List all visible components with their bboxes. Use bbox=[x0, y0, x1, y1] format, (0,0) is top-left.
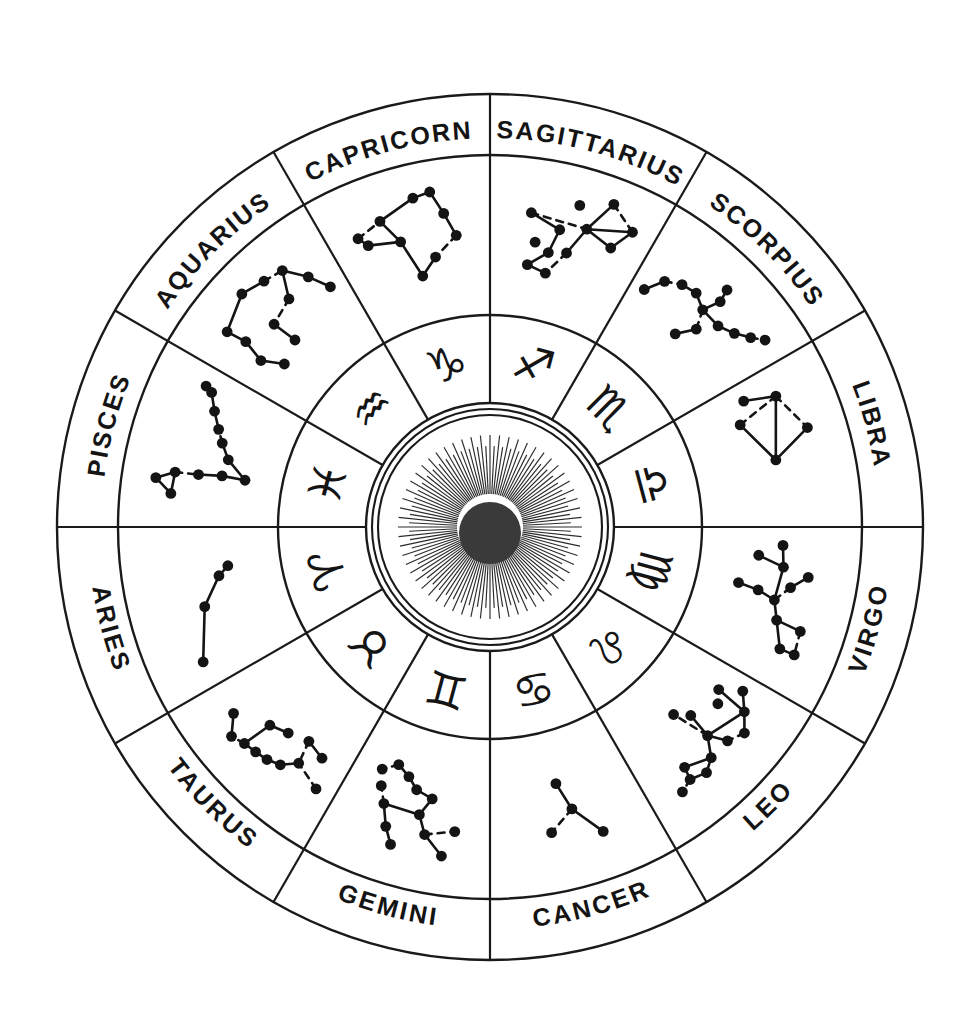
star-dot bbox=[404, 771, 415, 782]
pisces-glyph: ♓ bbox=[296, 457, 359, 511]
star-link bbox=[380, 198, 413, 221]
star-dot bbox=[803, 572, 814, 583]
sun-ray bbox=[517, 546, 565, 581]
star-link bbox=[587, 229, 633, 232]
star-dot bbox=[222, 560, 233, 571]
star-dot bbox=[217, 438, 228, 449]
star-dot bbox=[217, 470, 228, 481]
star-dot bbox=[240, 336, 251, 347]
constellation-aquarius bbox=[222, 265, 336, 369]
star-dot bbox=[679, 762, 690, 773]
star-link bbox=[776, 428, 808, 460]
sign-label-taurus: TAURUS bbox=[163, 753, 265, 855]
sun-emblem bbox=[398, 435, 582, 619]
gemini-glyph: ♊ bbox=[420, 658, 474, 721]
star-dot bbox=[393, 759, 404, 770]
star-dot bbox=[213, 424, 224, 435]
star-link bbox=[227, 294, 242, 332]
star-dot bbox=[530, 237, 541, 248]
star-dot bbox=[414, 809, 425, 820]
star-dot bbox=[697, 304, 708, 315]
star-link bbox=[384, 804, 419, 815]
virgo-glyph: ♍ bbox=[621, 544, 684, 598]
star-dot bbox=[526, 207, 537, 218]
star-dot bbox=[375, 216, 386, 227]
star-dot bbox=[239, 738, 250, 749]
star-dot bbox=[240, 475, 251, 486]
star-dot bbox=[802, 422, 813, 433]
constellation-aries bbox=[198, 560, 233, 667]
sign-label-text: PISCES bbox=[81, 368, 135, 478]
star-dot bbox=[546, 827, 557, 838]
star-dot bbox=[668, 709, 679, 720]
star-dot bbox=[150, 472, 161, 483]
aries-glyph: ♈ bbox=[296, 544, 359, 598]
star-dot bbox=[738, 396, 749, 407]
star-dot bbox=[226, 731, 237, 742]
star-dot bbox=[712, 698, 723, 709]
constellation-gemini bbox=[376, 759, 460, 861]
star-dot bbox=[753, 550, 764, 561]
sun-ray bbox=[436, 554, 471, 602]
star-dot bbox=[228, 708, 239, 719]
cancer-glyph: ♋ bbox=[507, 658, 561, 721]
star-dot bbox=[561, 248, 572, 259]
star-dot bbox=[677, 786, 688, 797]
sign-label-sagittarius: SAGITTARIUS bbox=[496, 115, 690, 191]
star-link bbox=[740, 425, 776, 460]
scorpius-glyph: ♏ bbox=[575, 375, 642, 442]
star-dot bbox=[436, 851, 447, 862]
star-dot bbox=[214, 570, 225, 581]
taurus-glyph: ♉ bbox=[338, 612, 405, 679]
sun-core-disc bbox=[459, 502, 521, 564]
sign-label-text: VIRGO bbox=[842, 581, 893, 677]
star-dot bbox=[279, 359, 290, 370]
star-dot bbox=[778, 562, 789, 573]
star-dot bbox=[293, 758, 304, 769]
constellation-scorpius bbox=[639, 276, 771, 346]
star-dot bbox=[685, 774, 696, 785]
star-dot bbox=[269, 319, 280, 330]
star-dot bbox=[691, 288, 702, 299]
star-dot bbox=[380, 821, 391, 832]
leo-glyph: ♌ bbox=[575, 612, 642, 679]
libra-glyph: ♎ bbox=[621, 457, 684, 511]
star-dot bbox=[713, 321, 724, 332]
star-dot bbox=[290, 335, 301, 346]
star-dot bbox=[277, 265, 288, 276]
star-link bbox=[587, 204, 614, 229]
aquarius-glyph: ♒ bbox=[338, 375, 405, 442]
star-dot bbox=[745, 332, 756, 343]
star-dot bbox=[785, 582, 796, 593]
sign-label-aries: ARIES bbox=[87, 583, 137, 675]
constellation-virgo bbox=[733, 540, 814, 660]
star-dot bbox=[407, 193, 418, 204]
sign-label-text: LEO bbox=[737, 774, 798, 835]
star-dot bbox=[378, 798, 389, 809]
star-link bbox=[708, 712, 745, 736]
star-dot bbox=[223, 454, 234, 465]
star-dot bbox=[264, 720, 275, 731]
star-dot bbox=[735, 420, 746, 431]
star-dot bbox=[385, 839, 396, 850]
star-dot bbox=[250, 746, 261, 757]
star-dot bbox=[659, 276, 670, 287]
star-dot bbox=[760, 335, 771, 346]
star-dot bbox=[255, 355, 266, 366]
star-link bbox=[401, 242, 423, 276]
star-dot bbox=[729, 328, 740, 339]
star-dot bbox=[259, 276, 270, 287]
star-dot bbox=[284, 294, 295, 305]
star-dot bbox=[262, 754, 273, 765]
constellation-sagittarius bbox=[522, 199, 638, 279]
star-dot bbox=[395, 236, 406, 247]
star-dot bbox=[419, 829, 430, 840]
star-dot bbox=[598, 826, 609, 837]
star-dot bbox=[417, 271, 428, 282]
star-dot bbox=[715, 296, 726, 307]
star-dot bbox=[303, 271, 314, 282]
star-dot bbox=[639, 284, 650, 295]
star-dot bbox=[311, 783, 322, 794]
star-dot bbox=[737, 686, 748, 697]
star-dot bbox=[677, 279, 688, 290]
